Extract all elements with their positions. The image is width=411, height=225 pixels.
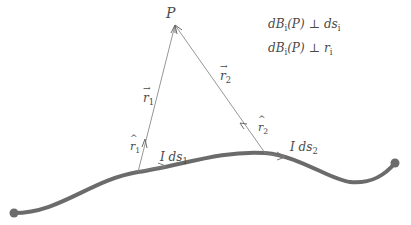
- equation-2: dBi(P)⊥ri: [268, 42, 332, 56]
- ids2-text: I ds: [290, 140, 312, 154]
- wire-start-endpoint: [10, 209, 19, 218]
- r2-vec-symbol: r: [220, 70, 226, 82]
- eq1-arg: (P): [287, 17, 304, 31]
- eq1-perp-symbol: ⊥: [309, 17, 320, 31]
- biot-savart-diagram: P r1 r1 I ds1 r2 r2 I ds2 dBi(P)⊥dsi dBi…: [0, 0, 411, 225]
- ids2-subscript: 2: [312, 146, 317, 156]
- eq1-rhs: ds: [324, 17, 338, 31]
- ids1-label: I ds1: [160, 151, 188, 165]
- eq2-perp-symbol: ⊥: [309, 41, 320, 55]
- ids2-label: I ds2: [290, 141, 318, 155]
- r2-hat-symbol: r: [258, 122, 263, 133]
- wire-end-endpoint: [391, 159, 400, 168]
- r2-vector-line: [175, 25, 265, 153]
- eq2-arg: (P): [287, 41, 304, 55]
- eq1-rhs-sub: i: [338, 23, 341, 33]
- current-wire: [14, 153, 395, 213]
- r1-vec-symbol: r: [143, 92, 149, 104]
- r1-subscript: 1: [149, 97, 154, 107]
- point-p-text: P: [166, 5, 175, 21]
- r1-hat-label: r1: [130, 141, 140, 155]
- diagram-graphics: [0, 0, 411, 225]
- eq2-lhs: dB: [268, 41, 285, 55]
- r2-hat-subscript: 2: [263, 127, 268, 136]
- r2-hat-label: r2: [258, 122, 268, 136]
- r1-hat-symbol: r: [130, 141, 135, 152]
- r1-hat-subscript: 1: [135, 146, 140, 155]
- ids1-text: I ds: [160, 150, 182, 164]
- r2-subscript: 2: [226, 75, 231, 85]
- ids1-subscript: 1: [182, 156, 187, 166]
- r2-label: r2: [220, 70, 231, 84]
- point-p-label: P: [166, 6, 175, 20]
- r1-label: r1: [143, 92, 154, 106]
- eq1-lhs: dB: [268, 17, 285, 31]
- equation-1: dBi(P)⊥dsi: [268, 18, 340, 32]
- eq2-rhs-sub: i: [330, 47, 333, 57]
